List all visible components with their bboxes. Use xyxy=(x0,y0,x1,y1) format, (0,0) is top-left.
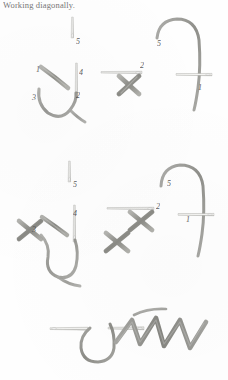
needle-eye xyxy=(138,327,142,329)
trailing-thread-tail xyxy=(58,277,80,286)
diagonal-stitch-highlight xyxy=(43,68,66,86)
stitch-label-4-row2: 4 xyxy=(73,210,77,218)
needle-eye xyxy=(208,214,212,216)
diagonal-stitch-highlight xyxy=(44,218,65,234)
thread-arc xyxy=(157,19,200,110)
stitch-label-3-row2: 3 xyxy=(32,226,36,234)
stitch-label-5-row2: 5 xyxy=(73,181,77,189)
needle-eye xyxy=(72,34,74,38)
thread-tail xyxy=(134,309,166,315)
stitch-label-3-row1: 3 xyxy=(32,94,36,102)
illustration-page: Working diagonally. 5 xyxy=(0,0,228,380)
figure-row2-needle-up xyxy=(58,160,86,190)
stitch-label-4-row1: 4 xyxy=(79,69,83,77)
figure-row1-first-stitch xyxy=(28,58,108,143)
needle-eye xyxy=(69,177,71,181)
figure-row3-zigzag xyxy=(48,298,228,370)
needle-eye xyxy=(206,74,210,76)
needle-eye xyxy=(148,208,152,210)
needle-shape xyxy=(107,207,154,209)
figure-row2-thread-loop xyxy=(158,158,228,258)
stitch-label-5-row1: 5 xyxy=(76,38,80,46)
needle-eye xyxy=(136,72,140,74)
stitch-label-1-row2-loop: 1 xyxy=(186,216,190,224)
zigzag-stitch-run xyxy=(116,318,206,348)
stitch-label-2-row1: 2 xyxy=(76,92,80,100)
figure-row1-thread-loop xyxy=(150,14,228,114)
figure-row1-needle-up xyxy=(60,16,90,48)
stitch-label-5-row2-loop: 5 xyxy=(167,180,171,188)
stitch-label-1-row1: 1 xyxy=(36,66,40,74)
trailing-thread-tail xyxy=(70,110,85,122)
stitch-label-1-row1-loop: 1 xyxy=(198,84,202,92)
page-caption: Working diagonally. xyxy=(3,0,75,10)
stitch-label-2-row1-cross: 2 xyxy=(140,62,144,70)
stitch-label-5-row1-loop: 5 xyxy=(157,40,161,48)
needle-eye xyxy=(52,328,57,330)
trailing-thread xyxy=(41,235,77,278)
figure-row2-stitch-group xyxy=(14,200,100,288)
